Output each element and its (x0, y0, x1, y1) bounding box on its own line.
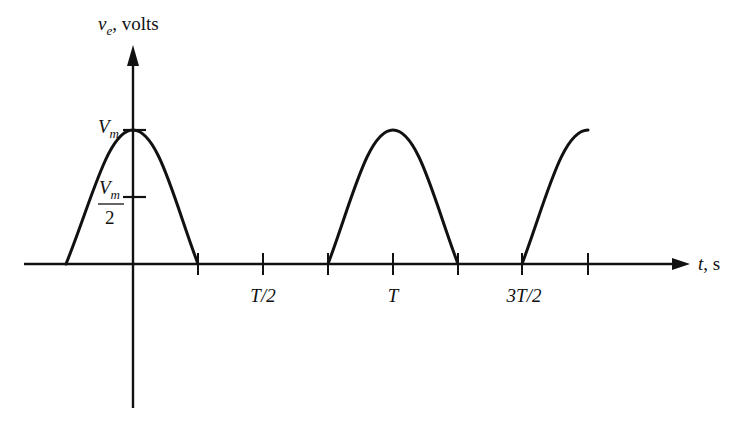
pulse-2 (328, 130, 458, 264)
svg-text:Vm: Vm (99, 177, 120, 202)
x-axis-arrow-icon (672, 258, 690, 270)
waveform-diagram: ve, volts Vm Vm 2 T/2 T 3T/2 t, s (0, 0, 742, 425)
tick-label-3t-half: 3T/2 (506, 285, 542, 306)
tick-label-vm: Vm (98, 116, 119, 141)
x-axis-label: t, s (698, 253, 720, 274)
tick-label-t: T (388, 285, 400, 306)
y-axis-label: ve, volts (98, 13, 159, 38)
y-axis-arrow-icon (127, 45, 139, 66)
tick-label-t-half: T/2 (250, 285, 276, 306)
pulse-3 (522, 130, 588, 264)
y-ticks (123, 130, 146, 197)
tick-label-vm-half: Vm 2 (98, 177, 124, 228)
svg-text:2: 2 (105, 207, 115, 228)
